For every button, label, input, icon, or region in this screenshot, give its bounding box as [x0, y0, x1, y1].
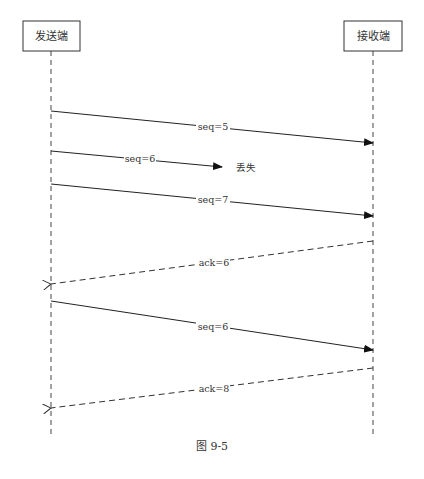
message-ack6: ack=6 [51, 241, 373, 284]
message-label: seq=7 [198, 194, 229, 205]
message-ack8: ack=8 [51, 368, 373, 408]
message-seq6-lost: seq=6 丢失 [51, 151, 256, 173]
message-label: seq=6 [198, 321, 229, 332]
message-label: seq=5 [198, 121, 229, 132]
lost-note: 丢失 [236, 162, 256, 173]
message-label: ack=8 [199, 383, 230, 394]
sequence-diagram: 发送端 接收端 seq=5 seq=6 丢失 seq=7 ack=6 seq=6 [0, 0, 424, 479]
actor-receiver-label: 接收端 [357, 29, 390, 43]
message-seq6-retransmit: seq=6 [51, 301, 373, 350]
message-label: ack=6 [199, 257, 230, 268]
actor-sender-label: 发送端 [35, 29, 68, 43]
message-label: seq=6 [125, 153, 156, 164]
actor-sender: 发送端 [23, 21, 80, 51]
figure-caption: 图 9-5 [196, 440, 228, 453]
message-seq7: seq=7 [51, 184, 373, 216]
message-seq5: seq=5 [51, 111, 373, 143]
actor-receiver: 接收端 [344, 21, 402, 51]
